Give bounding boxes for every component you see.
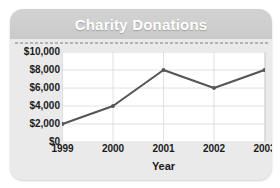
x-axis: 19992000200120022003 [62,144,265,158]
y-axis: $10,000$8,000$6,000$4,000$2,000$0 [10,52,60,142]
y-axis-tick-label: $8,000 [12,65,60,75]
y-axis-tick-label: $6,000 [12,83,60,93]
chart-card: Charity Donations $10,000$8,000$6,000$4,… [10,9,272,180]
x-axis-tick-label: 2001 [152,144,174,154]
line-chart-svg [62,52,265,142]
y-axis-tick-label: $4,000 [12,101,60,111]
y-axis-tick-label: $10,000 [12,47,60,57]
x-axis-tick-label: 2000 [102,144,124,154]
vertical-gridlines [63,52,265,142]
dotted-divider [14,40,268,44]
x-axis-tick-label: 2003 [253,144,272,154]
x-axis-title: Year [62,160,265,172]
page-title: Charity Donations [75,16,208,33]
plot-area [62,52,266,142]
y-axis-tick-label: $2,000 [12,119,60,129]
chart-title-band: Charity Donations [10,9,272,39]
x-axis-tick-label: 2002 [203,144,225,154]
x-axis-tick-label: 1999 [51,144,73,154]
